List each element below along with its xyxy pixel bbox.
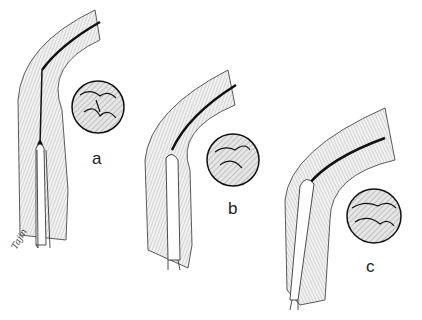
panel-b-label: b: [228, 200, 237, 217]
panel-a-inset: [72, 81, 124, 133]
illustration-drawing: [0, 0, 422, 320]
panel-c-label: c: [366, 258, 375, 275]
panel-a-label: a: [92, 150, 101, 167]
medical-illustration: a b c Tajin: [0, 0, 422, 320]
panel-c-inset: [347, 189, 401, 243]
panel-b-inset: [207, 134, 259, 186]
